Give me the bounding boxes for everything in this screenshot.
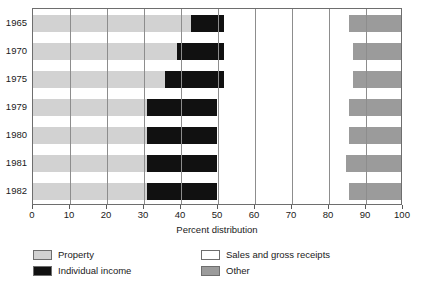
bar-segment-other — [353, 71, 401, 88]
bar-segment-individual — [191, 15, 224, 32]
x-tick-label-50: 50 — [212, 209, 223, 221]
legend-label: Individual income — [58, 265, 131, 277]
bar-row — [33, 99, 401, 116]
bar-row — [33, 71, 401, 88]
x-tick-label-100: 100 — [394, 209, 410, 221]
bar-row — [33, 183, 401, 200]
x-tick-label-90: 90 — [360, 209, 371, 221]
bar-segment-sales — [224, 71, 353, 88]
legend-item-other[interactable]: Other — [201, 265, 250, 277]
bar-segment-property — [33, 71, 165, 88]
bars-layer — [33, 9, 401, 204]
x-tick-label-30: 30 — [138, 209, 149, 221]
y-axis-label-1970: 1970 — [6, 45, 27, 56]
legend-item-property[interactable]: Property — [33, 249, 94, 261]
bar-segment-individual — [177, 43, 225, 60]
stacked-bar-chart-figure: 1965197019751979198019811982 Percent dis… — [0, 0, 423, 285]
bar-segment-other — [353, 43, 401, 60]
bar-segment-other — [349, 183, 401, 200]
bar-segment-sales — [224, 43, 353, 60]
legend-swatch-property-icon — [33, 250, 52, 260]
x-tick-label-20: 20 — [101, 209, 112, 221]
legend-label: Other — [226, 265, 250, 277]
legend-swatch-other-icon — [201, 266, 220, 276]
y-axis-label-1982: 1982 — [6, 185, 27, 196]
bar-segment-property — [33, 43, 177, 60]
bar-segment-sales — [217, 183, 349, 200]
y-axis-label-1980: 1980 — [6, 129, 27, 140]
bar-segment-sales — [224, 15, 349, 32]
y-axis-label-1979: 1979 — [6, 101, 27, 112]
bar-segment-other — [349, 15, 401, 32]
bar-row — [33, 155, 401, 172]
bar-segment-property — [33, 15, 191, 32]
bar-segment-sales — [217, 99, 349, 116]
legend-item-individual[interactable]: Individual income — [33, 265, 131, 277]
bar-segment-property — [33, 155, 147, 172]
legend-swatch-sales-icon — [201, 250, 220, 260]
x-tick-label-0: 0 — [29, 209, 34, 221]
chart-legend: PropertyIndividual incomeSales and gross… — [33, 249, 403, 281]
y-axis-category-labels: 1965197019751979198019811982 — [0, 8, 30, 205]
x-axis: Percent distribution 0102030405060708090… — [32, 205, 402, 235]
bar-segment-other — [349, 99, 401, 116]
bar-segment-sales — [217, 155, 346, 172]
bar-row — [33, 15, 401, 32]
x-tick-label-70: 70 — [286, 209, 297, 221]
bar-segment-property — [33, 127, 147, 144]
bar-row — [33, 43, 401, 60]
bar-segment-individual — [147, 127, 217, 144]
bar-segment-individual — [165, 71, 224, 88]
y-axis-label-1981: 1981 — [6, 157, 27, 168]
bar-segment-property — [33, 99, 147, 116]
x-tick-label-40: 40 — [175, 209, 186, 221]
legend-item-sales[interactable]: Sales and gross receipts — [201, 249, 330, 261]
bar-segment-individual — [147, 99, 217, 116]
bar-segment-other — [349, 127, 401, 144]
legend-label: Property — [58, 249, 94, 261]
bar-segment-sales — [217, 127, 349, 144]
legend-label: Sales and gross receipts — [226, 249, 330, 261]
bar-segment-individual — [147, 183, 217, 200]
bar-segment-individual — [147, 155, 217, 172]
y-axis-label-1965: 1965 — [6, 17, 27, 28]
x-tick-label-80: 80 — [323, 209, 334, 221]
bar-row — [33, 127, 401, 144]
y-axis-label-1975: 1975 — [6, 73, 27, 84]
legend-swatch-individual-icon — [33, 266, 52, 276]
plot-area — [32, 8, 402, 205]
x-axis-title: Percent distribution — [32, 224, 402, 236]
bar-segment-other — [346, 155, 401, 172]
bar-segment-property — [33, 183, 147, 200]
x-tick-label-60: 60 — [249, 209, 260, 221]
x-tick-label-10: 10 — [64, 209, 75, 221]
